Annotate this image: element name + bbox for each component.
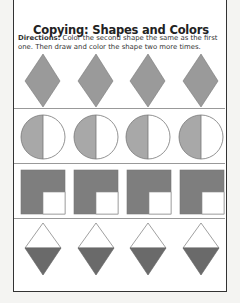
diamond-shape-1 [25, 54, 60, 107]
half-circle-shape-2 [74, 115, 118, 159]
square-shape-1 [21, 170, 65, 214]
square-shape-3 [127, 170, 171, 214]
diamond-row [25, 54, 218, 107]
kite-shape-4 [183, 223, 219, 275]
square-row [21, 170, 224, 214]
kite-shape-2 [78, 223, 114, 275]
kite-shape-3 [130, 223, 166, 275]
diamond-shape-3 [130, 54, 165, 107]
half-circle-shape-1 [21, 115, 65, 159]
circle-row [21, 115, 223, 159]
square-shape-4 [180, 170, 224, 214]
half-circle-shape-4 [179, 115, 223, 159]
square-shape-2 [74, 170, 118, 214]
kite-row [25, 223, 219, 275]
half-circle-shape-3 [126, 115, 170, 159]
diamond-shape-4 [183, 54, 218, 107]
worksheet-page: Copying: Shapes and Colors Directions: C… [13, 0, 227, 292]
diamond-shape-2 [78, 54, 113, 107]
shapes-canvas [1, 1, 240, 301]
kite-shape-1 [25, 223, 61, 275]
